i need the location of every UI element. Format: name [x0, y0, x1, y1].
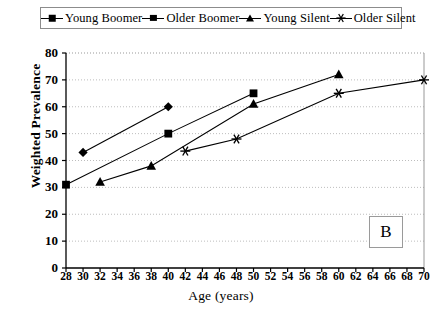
series-older-boomer — [62, 89, 257, 188]
figure-panel-b: Young Boomer Older Boomer Young Silent — [0, 0, 442, 318]
series-older-silent — [180, 75, 429, 155]
panel-label-b: B — [369, 216, 403, 248]
series-young-boomer — [78, 102, 172, 157]
plot-area — [0, 0, 442, 318]
series-young-silent — [95, 70, 343, 186]
